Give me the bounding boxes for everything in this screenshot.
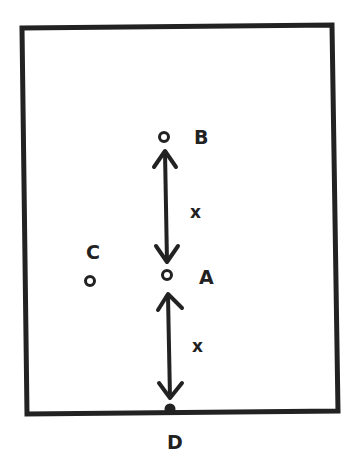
point-c: [86, 277, 95, 286]
point-b: [160, 133, 169, 142]
distance-label-ab: x: [190, 202, 201, 222]
arrow-a-to-d: [158, 294, 182, 398]
diagram-canvas: B A C D x x: [0, 0, 352, 469]
point-a: [163, 271, 172, 280]
label-a: A: [199, 266, 214, 288]
point-d: [165, 404, 176, 415]
label-b: B: [194, 126, 208, 148]
label-d: D: [167, 431, 183, 453]
arrow-a-to-b: [154, 151, 178, 262]
distance-label-ad: x: [192, 336, 203, 356]
label-c: C: [86, 241, 100, 263]
boundary-rectangle: [22, 25, 338, 414]
